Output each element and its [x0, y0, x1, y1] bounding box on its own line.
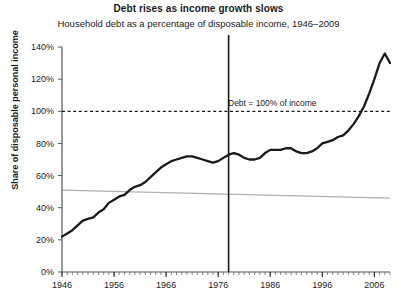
y-axis-tick-label: 120% — [31, 74, 54, 84]
x-axis-tick-label: 1996 — [312, 280, 332, 290]
y-axis-tick-label: 140% — [31, 42, 54, 52]
y-axis-tick-label: 100% — [31, 106, 54, 116]
x-axis-tick-label: 1986 — [260, 280, 280, 290]
reference-line-annotation: Debt = 100% of income — [228, 98, 317, 108]
y-axis-tick-label: 80% — [36, 139, 54, 149]
x-axis-tick-label: 1966 — [156, 280, 176, 290]
x-axis-tick-label: 1946 — [52, 280, 72, 290]
x-axis-tick-label: 1976 — [208, 280, 228, 290]
chart-container: Debt rises as income growth slows Househ… — [0, 0, 397, 299]
y-axis-tick-label: 60% — [36, 171, 54, 181]
x-axis-tick-label: 1956 — [104, 280, 124, 290]
income-growth-trend-line — [62, 190, 390, 198]
chart-plot-area: 0%20%40%60%80%100%120%140%19461956196619… — [0, 0, 397, 299]
y-axis-tick-label: 20% — [36, 235, 54, 245]
y-axis-tick-label: 0% — [41, 267, 54, 277]
y-axis-tick-label: 40% — [36, 203, 54, 213]
x-axis-tick-label: 2006 — [364, 280, 384, 290]
data-series-line — [62, 53, 390, 236]
